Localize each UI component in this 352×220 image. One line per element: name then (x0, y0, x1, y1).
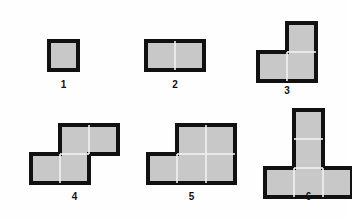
shape-p-pentomino (148, 125, 235, 183)
figure-label-3: 3 (258, 85, 316, 97)
figure-3 (258, 23, 316, 81)
shape-s-tetromino (31, 125, 118, 183)
shape-domino (146, 41, 204, 70)
figure-5 (148, 125, 235, 183)
shape-monomino (49, 41, 78, 70)
shape-l-tromino (258, 23, 316, 81)
figure-label-5: 5 (148, 191, 235, 203)
figure-2 (146, 41, 204, 70)
figure-6 (265, 110, 352, 197)
figure-label-4: 4 (31, 191, 118, 203)
figure-label-2: 2 (146, 79, 204, 91)
figure-label-6: 6 (265, 191, 352, 203)
shape-outline (49, 41, 78, 70)
figure-label-1: 1 (49, 79, 78, 91)
figure-4 (31, 125, 118, 183)
figure-1 (49, 41, 78, 70)
shape-outline (265, 110, 352, 197)
shape-t-pentomino (265, 110, 352, 197)
